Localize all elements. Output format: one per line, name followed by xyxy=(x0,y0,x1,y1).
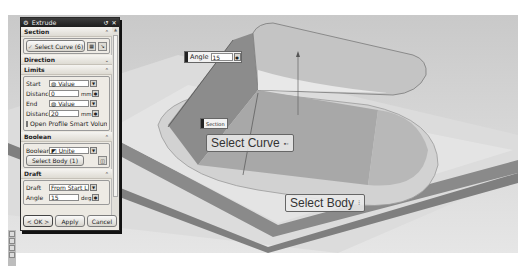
start-label: Start xyxy=(26,80,49,87)
end-label: End xyxy=(26,100,49,107)
start-distance-input[interactable]: 0 xyxy=(49,90,79,97)
end-distance-input[interactable]: 20 xyxy=(49,110,79,117)
boolean-header-label: Boolean xyxy=(24,133,105,140)
end-distance-menu-icon[interactable]: ● xyxy=(92,110,99,117)
value-type-icon: ◍ xyxy=(51,100,56,107)
angle-label: Angle xyxy=(26,194,49,201)
draft-select[interactable]: From Start Limit xyxy=(49,184,89,191)
draft-header-label: Draft xyxy=(24,170,105,177)
resource-bar xyxy=(8,230,16,266)
direction-header-label: Direction xyxy=(24,56,105,63)
boolean-select[interactable]: ◩ Unite xyxy=(49,147,89,154)
dialog-scrollbar[interactable]: ▲ xyxy=(111,27,119,216)
chevron-up-icon: ⌃ xyxy=(105,29,109,35)
section-header-direction[interactable]: Direction ⌄ xyxy=(21,55,112,65)
section-header-boolean[interactable]: Boolean ⌃ xyxy=(21,132,112,142)
chevron-up-icon: ⌃ xyxy=(105,134,109,140)
reset-icon[interactable]: ↺ xyxy=(103,20,109,26)
end-select[interactable]: ◍ Value xyxy=(49,100,89,107)
angle-onscreen-input[interactable]: Angle 15 ● xyxy=(184,51,242,63)
limits-header-label: Limits xyxy=(24,66,105,73)
angle-unit: deg xyxy=(81,195,91,201)
section-header-label: Section xyxy=(24,28,105,35)
resource-tab-icon[interactable] xyxy=(9,238,15,244)
angle-tag-value[interactable]: 15 xyxy=(211,53,233,61)
angle-tag-label: Angle xyxy=(188,53,211,61)
cancel-button[interactable]: Cancel xyxy=(87,215,117,227)
open-profile-checkbox[interactable] xyxy=(26,121,28,127)
resource-tab-icon[interactable] xyxy=(9,245,15,251)
body-pointer-icon: ⁝ xyxy=(358,199,360,207)
select-curve-label: Select Curve (6) xyxy=(35,43,84,50)
value-type-icon: ◍ xyxy=(51,80,56,87)
select-curve-hint[interactable]: Select Curve ▪◦ xyxy=(206,134,294,152)
start-distance-unit: mm xyxy=(81,91,91,97)
select-curve-hint-label: Select Curve xyxy=(211,136,280,150)
draft-dropdown-icon[interactable]: ▼ xyxy=(90,184,97,191)
section-header-limits[interactable]: Limits ⌃ xyxy=(21,65,112,75)
scrollbar-thumb[interactable] xyxy=(113,35,118,197)
select-body-label: Select Body (1) xyxy=(32,157,78,164)
dialog-footer: < OK > Apply Cancel xyxy=(23,215,117,227)
start-dropdown-icon[interactable]: ▼ xyxy=(90,80,97,87)
select-body-button[interactable]: Select Body (1) xyxy=(26,155,84,166)
unite-icon: ◩ xyxy=(51,147,57,154)
boolean-group: Boolean ◩ Unite ▼ Select Body (1) ◫ xyxy=(23,143,110,168)
curve-pointer-icon: ▪◦ xyxy=(284,140,289,147)
select-body-hint[interactable]: Select Body ⁝ xyxy=(285,194,365,212)
section-tag[interactable]: Section xyxy=(200,118,228,129)
start-distance-label: Distance xyxy=(26,90,49,97)
angle-menu-icon[interactable]: ● xyxy=(92,194,99,201)
start-value: Value xyxy=(58,80,74,87)
draft-group: Draft From Start Limit ▼ Angle 15 deg ● xyxy=(23,180,110,205)
resource-tab-icon[interactable] xyxy=(9,231,15,237)
section-header-section[interactable]: Section ⌃ xyxy=(21,27,112,37)
close-icon[interactable]: ✕ xyxy=(111,20,117,26)
start-distance-menu-icon[interactable]: ● xyxy=(92,90,99,97)
open-profile-label: Open Profile Smart Volume xyxy=(30,120,107,127)
end-dropdown-icon[interactable]: ▼ xyxy=(90,100,97,107)
extrude-dialog: ⚙ Extrude ↺ ✕ ▲ Section ⌃ ✓ Select Curve… xyxy=(20,17,120,231)
checkmark-icon: ✓ xyxy=(28,43,33,50)
select-curve-button[interactable]: ✓ Select Curve (6) xyxy=(26,40,85,52)
gear-icon: ⚙ xyxy=(23,19,29,26)
sketch-section-icon[interactable]: ▦ xyxy=(87,42,96,51)
boolean-label: Boolean xyxy=(26,147,49,154)
section-header-draft[interactable]: Draft ⌃ xyxy=(21,169,112,179)
draft-label: Draft xyxy=(26,184,49,191)
chevron-up-icon: ⌃ xyxy=(105,171,109,177)
end-distance-unit: mm xyxy=(81,111,91,117)
chevron-up-icon: ⌃ xyxy=(105,67,109,73)
angle-input[interactable]: 15 xyxy=(49,194,79,201)
scroll-up-icon[interactable]: ▲ xyxy=(112,27,119,33)
end-value: Value xyxy=(58,100,74,107)
angle-tag-menu-icon[interactable]: ● xyxy=(234,53,241,61)
boolean-value: Unite xyxy=(59,147,75,154)
dialog-title: Extrude xyxy=(32,19,101,26)
dialog-titlebar[interactable]: ⚙ Extrude ↺ ✕ xyxy=(21,18,119,27)
end-distance-label: Distance xyxy=(26,110,49,117)
chevron-down-icon: ⌄ xyxy=(105,57,109,63)
body-select-icon[interactable]: ◫ xyxy=(98,156,107,165)
apply-button[interactable]: Apply xyxy=(55,215,85,227)
resource-tab-icon[interactable] xyxy=(9,252,15,258)
limits-group: Start ◍ Value ▼ Distance 0 mm ● End ◍ Va… xyxy=(23,76,110,131)
start-select[interactable]: ◍ Value xyxy=(49,80,89,87)
curve-section-icon[interactable]: ↘ xyxy=(98,42,107,51)
boolean-dropdown-icon[interactable]: ▼ xyxy=(90,147,97,154)
section-group: ✓ Select Curve (6) ▦ ↘ xyxy=(23,38,110,54)
ok-button[interactable]: < OK > xyxy=(23,215,53,227)
section-tag-label: Section xyxy=(204,121,227,127)
select-body-hint-label: Select Body xyxy=(290,196,354,210)
